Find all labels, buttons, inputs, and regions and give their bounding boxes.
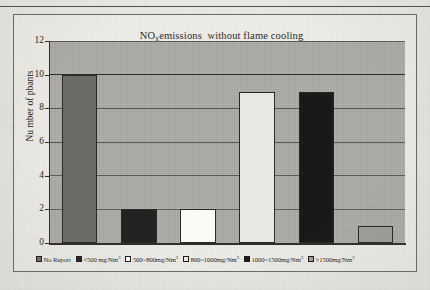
legend-item-0[interactable]: No Report <box>36 256 71 263</box>
legend-label-5: >1500mg/Nm3 <box>316 255 355 263</box>
bar-3 <box>239 92 275 244</box>
legend-swatch-icon-0 <box>36 256 42 262</box>
y-tick-label-0: 0 <box>16 237 44 247</box>
plot-area <box>50 41 405 243</box>
legend-item-4[interactable]: 1000~1500mg/Nm3 <box>244 255 303 263</box>
gridline-12 <box>50 41 405 42</box>
legend-item-5[interactable]: >1500mg/Nm3 <box>308 255 354 263</box>
bar-2 <box>180 209 216 243</box>
chart-title-suffix: emissions without flame cooling <box>159 30 303 41</box>
page-top-rule <box>0 6 430 7</box>
y-tick-mark-2 <box>45 209 49 210</box>
gridline-10 <box>50 74 405 76</box>
y-tick-mark-12 <box>45 41 49 42</box>
legend-label-superscript-4: 3 <box>301 255 303 260</box>
legend-label-1: <500 mg/Nm3 <box>83 255 120 263</box>
legend-swatch-icon-1 <box>76 256 82 262</box>
legend-label-superscript-3: 3 <box>237 255 239 260</box>
y-tick-mark-0 <box>45 243 49 244</box>
chart-legend: No Report<500 mg/Nm3500~800mg/Nm3800~100… <box>36 252 418 266</box>
bar-5 <box>358 226 394 243</box>
bar-1 <box>121 209 157 243</box>
legend-label-superscript-1: 3 <box>118 255 120 260</box>
y-tick-mark-6 <box>45 142 49 143</box>
legend-swatch-icon-5 <box>308 256 314 262</box>
legend-swatch-icon-2 <box>125 256 131 262</box>
y-tick-label-2: 2 <box>16 203 44 213</box>
legend-label-superscript-5: 3 <box>352 255 354 260</box>
y-tick-label-12: 12 <box>16 35 44 45</box>
x-axis-line <box>49 243 406 245</box>
gridline-4 <box>50 175 405 176</box>
chart-title-prefix: NO <box>140 30 155 41</box>
chart-figure: NOxemissions without flame cooling 02468… <box>13 14 417 272</box>
bar-4 <box>299 92 335 244</box>
bar-0 <box>62 75 98 243</box>
y-tick-mark-10 <box>45 75 49 76</box>
legend-swatch-icon-3 <box>183 256 189 262</box>
y-tick-mark-8 <box>45 108 49 109</box>
legend-item-1[interactable]: <500 mg/Nm3 <box>76 255 121 263</box>
gridline-6 <box>50 142 405 143</box>
gridline-8 <box>50 108 405 109</box>
legend-item-2[interactable]: 500~800mg/Nm3 <box>125 255 178 263</box>
gridline-2 <box>50 209 405 210</box>
legend-label-superscript-2: 3 <box>176 255 178 260</box>
legend-label-4: 1000~1500mg/Nm3 <box>251 255 303 263</box>
legend-label-0: No Report <box>44 256 71 263</box>
y-tick-mark-4 <box>45 176 49 177</box>
y-tick-label-4: 4 <box>16 170 44 180</box>
legend-swatch-icon-4 <box>244 256 250 262</box>
y-axis-label: Nu mber of pbants <box>25 46 35 166</box>
legend-item-3[interactable]: 800~1000mg/Nm3 <box>183 255 239 263</box>
legend-label-2: 500~800mg/Nm3 <box>133 255 178 263</box>
legend-label-3: 800~1000mg/Nm3 <box>191 255 239 263</box>
